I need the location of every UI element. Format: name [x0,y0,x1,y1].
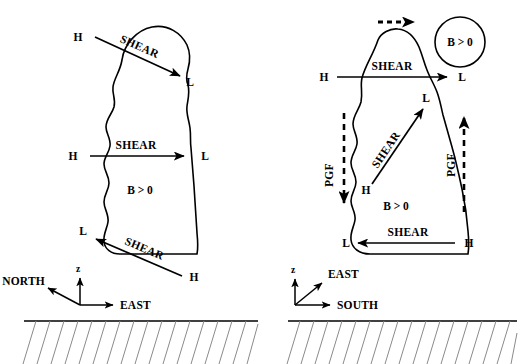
right-axis-south-label: SOUTH [337,299,378,311]
right-buoyancy-label: B > 0 [383,200,409,212]
left-ground [23,321,258,364]
right-axis-z-label: z [291,265,296,275]
left-ground-hatching [23,321,258,364]
left-lower-shear-low-label: L [79,225,87,237]
right-lower-shear-label: SHEAR [387,226,429,238]
left-mid-shear-low-label: L [201,150,209,162]
right-axis-east [295,283,322,305]
right-lower-shear-low-label: L [342,237,350,249]
right-axis-east-label: EAST [328,268,359,280]
left-axis-east-label: EAST [120,299,151,311]
left-upper-shear-high-label: H [74,31,83,43]
right-ground [287,321,517,364]
left-lower-shear-label: SHEAR [123,235,166,262]
left-lower-shear-high-label: H [190,271,199,283]
right-upper-shear-low-label: L [458,71,466,83]
left-panel: H L SHEAR H L SHEAR B > 0 H L SHEAR z NO… [2,26,258,364]
left-axis-z-label: z [76,264,81,274]
left-mid-shear-label: SHEAR [115,139,157,151]
right-panel: B > 0 H L SHEAR H L SHEAR PGF PGF B > 0 … [287,17,517,364]
right-right-pgf-label: PGF [445,153,457,177]
left-mid-shear-high-label: H [69,150,78,162]
right-upper-shear-label: SHEAR [371,60,413,72]
right-lower-shear-high-label: H [465,237,474,249]
left-axes: z NORTH EAST [2,264,151,311]
diagram-canvas: H L SHEAR H L SHEAR B > 0 H L SHEAR z NO… [0,0,522,364]
left-upper-shear-label: SHEAR [118,33,161,61]
diagram-root: H L SHEAR H L SHEAR B > 0 H L SHEAR z NO… [0,0,522,364]
right-mid-shear-high-label: H [362,184,371,196]
left-axis-north-label: NORTH [2,275,45,287]
right-ground-hatching [287,321,517,364]
right-mid-shear-low-label: L [422,92,430,104]
right-axes: z EAST SOUTH [291,265,378,311]
left-upper-shear-low-label: L [186,76,194,88]
right-upper-shear-high-label: H [320,71,329,83]
left-axis-north [48,288,80,305]
right-left-pgf-label: PGF [323,163,335,187]
left-buoyancy-label: B > 0 [127,184,153,196]
right-bubble-label: B > 0 [447,36,473,48]
